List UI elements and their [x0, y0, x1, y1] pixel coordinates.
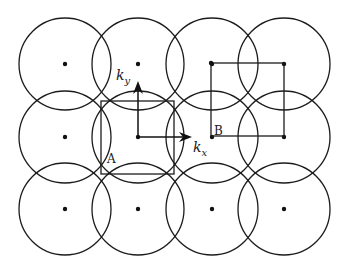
ky-label: ky [116, 67, 130, 86]
diagram-svg: ky kx A B [0, 0, 344, 271]
cell-b-corner-dot [209, 61, 213, 65]
lattice-point-dot [136, 62, 140, 66]
cell-b-label: B [214, 124, 223, 138]
lattice-point-dot [210, 207, 214, 211]
cell-a-label: A [106, 152, 116, 166]
k-space-lattice-diagram: ky kx A B [0, 0, 344, 271]
lattice-point-dot [282, 207, 286, 211]
lattice-point-dot [136, 207, 140, 211]
lattice-point-dot [63, 135, 67, 139]
kx-label: kx [193, 139, 207, 158]
lattice-point-dot [63, 207, 67, 211]
lattice-point-dot [63, 62, 67, 66]
